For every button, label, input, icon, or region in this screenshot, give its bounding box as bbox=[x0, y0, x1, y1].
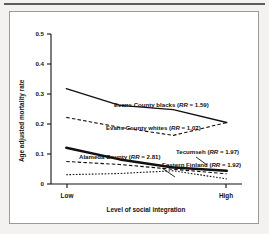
y-tick-label-0.1: 0.1 bbox=[35, 150, 44, 157]
chart-panel: 0.5 0.4 0.3 0.2 0.1 0 Age adjusted morta… bbox=[9, 11, 259, 224]
y-tick-label-0.3: 0.3 bbox=[35, 90, 44, 97]
y-axis-title: Age adjusted mortality rate bbox=[18, 79, 26, 162]
figure-container: 0.5 0.4 0.3 0.2 0.1 0 Age adjusted morta… bbox=[0, 0, 269, 234]
y-tick-label-0.2: 0.2 bbox=[35, 120, 44, 127]
y-tick-label-0.4: 0.4 bbox=[35, 60, 44, 67]
x-axis-title: Level of social integration bbox=[107, 206, 186, 214]
annotation-eastern-finland: Eastern Finland (RR = 1.92) bbox=[162, 161, 241, 168]
leader-eastern-finland bbox=[162, 168, 175, 177]
x-tick-label-high: High bbox=[219, 192, 233, 200]
line-chart: 0.5 0.4 0.3 0.2 0.1 0 Age adjusted morta… bbox=[10, 12, 258, 223]
y-tick-label-0: 0 bbox=[41, 180, 45, 187]
x-tick-label-low: Low bbox=[61, 192, 74, 199]
annotation-alameda-county: Alameda County (RR = 2.81) bbox=[79, 153, 161, 160]
annotation-tecumseh: Tecumseh (RR = 1.97) bbox=[176, 148, 239, 155]
annotation-evans-county-whites: Evans County whites (RR = 1.07) bbox=[106, 124, 201, 131]
y-tick-label-0.5: 0.5 bbox=[35, 30, 44, 37]
top-rule-divider bbox=[4, 3, 265, 5]
series-line-eastern-finland bbox=[66, 171, 226, 179]
annotation-evans-county-blacks: Evans County blacks (RR = 1.59) bbox=[114, 101, 209, 108]
